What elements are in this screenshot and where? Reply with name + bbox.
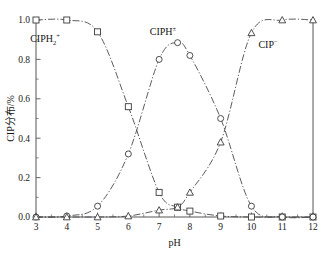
y-tick-label: 0.0 (18, 212, 30, 222)
data-point-marker (95, 203, 101, 209)
x-tick-label: 4 (64, 222, 69, 232)
x-tick-label: 9 (218, 222, 223, 232)
y-tick-label: 0.4 (18, 134, 30, 144)
x-tick-label: 12 (308, 222, 318, 232)
data-point-marker (156, 189, 162, 195)
y-tick-label: 1.0 (18, 15, 30, 25)
y-tick-label: 0.6 (18, 94, 30, 104)
x-tick-label: 5 (95, 222, 100, 232)
data-point-marker (64, 17, 70, 23)
data-point-marker (95, 29, 101, 35)
data-point-marker (187, 52, 193, 58)
y-tick-label: 0.2 (18, 173, 30, 183)
data-point-marker (125, 104, 131, 110)
data-point-marker (33, 17, 39, 23)
chart-canvas: 3456789101112 0.00.20.40.60.81.0 CIPH2+C… (0, 0, 326, 266)
zwitterion-species-label: CIPH± (150, 25, 177, 37)
data-point-marker (248, 203, 254, 209)
data-point-marker (279, 214, 285, 220)
x-tick-label: 10 (247, 222, 257, 232)
x-tick-label: 8 (188, 222, 193, 232)
data-point-marker (310, 214, 316, 220)
y-tick-label: 0.8 (18, 55, 30, 65)
x-tick-label: 11 (278, 222, 287, 232)
data-point-marker (175, 40, 181, 46)
data-point-marker (248, 214, 254, 220)
data-point-marker (218, 116, 224, 122)
data-point-marker (218, 213, 224, 219)
data-point-marker (187, 208, 193, 214)
x-tick-label: 6 (126, 222, 131, 232)
x-tick-label: 3 (34, 222, 39, 232)
data-point-marker (125, 151, 131, 157)
cationic-species-label: CIPH2+ (30, 32, 60, 45)
x-axis-title: pH (168, 237, 180, 248)
data-point-marker (156, 56, 162, 62)
speciation-chart-figure: 3456789101112 0.00.20.40.60.81.0 CIPH2+C… (0, 0, 326, 266)
y-axis-title: CIP分布/% (5, 95, 16, 142)
x-tick-label: 7 (157, 222, 162, 232)
